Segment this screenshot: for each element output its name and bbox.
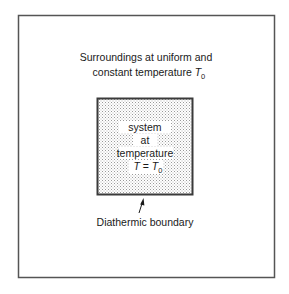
system-temp-subscript: 0 — [158, 166, 162, 175]
system-equals: = — [140, 160, 152, 172]
system-label-line1: system — [128, 121, 162, 133]
surroundings-label-line2: constant temperature T0 — [78, 66, 214, 81]
system-label-line2: at — [141, 134, 150, 146]
arrow-head-icon — [140, 198, 144, 206]
boundary-arrow — [139, 198, 144, 213]
surroundings-label-line1: Surroundings at uniform and — [80, 51, 213, 63]
system-label-line3: temperature — [117, 147, 174, 159]
diagram: Surroundings at uniform and constant tem… — [0, 0, 289, 294]
temperature-subscript: 0 — [201, 72, 205, 81]
surroundings-label-text: constant temperature — [93, 66, 195, 78]
boundary-label: Diathermic boundary — [97, 216, 195, 228]
